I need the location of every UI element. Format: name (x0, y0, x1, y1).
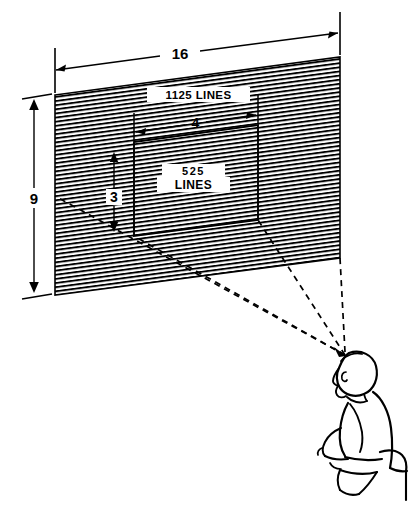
chest (340, 403, 348, 456)
arrow-up (29, 99, 39, 110)
diagram-root: 16 9 1125 LINES 4 3 (0, 0, 419, 506)
dim-line-right-seg (200, 33, 338, 51)
hand (318, 448, 322, 455)
thigh-bottom (340, 470, 377, 474)
thigh-top (345, 457, 382, 460)
dimension-label-16: 16 (172, 45, 189, 62)
label-525-lines-group: 525 LINES (157, 164, 230, 192)
dimension-label-3: 3 (110, 189, 118, 205)
dim-line-left-seg (56, 56, 160, 70)
fingers (330, 463, 341, 469)
back (373, 392, 392, 468)
lower-leg (359, 472, 377, 494)
label-lines: LINES (175, 178, 212, 192)
chair-seat (390, 468, 407, 471)
ext-tick-bottom (22, 294, 52, 299)
dimension-label-9: 9 (30, 190, 38, 207)
collar (347, 397, 367, 402)
foot (340, 490, 359, 495)
shoulder-seam (350, 404, 362, 452)
knee (338, 470, 340, 490)
label-1125-lines: 1125 LINES (165, 89, 231, 101)
upper-arm (323, 428, 341, 456)
label-525: 525 (182, 165, 205, 177)
sight-line-outer-right (340, 258, 345, 352)
label-1125-lines-group: 1125 LINES (147, 87, 250, 102)
aspect-ratio-diagram-svg: 16 9 1125 LINES 4 3 (0, 0, 419, 506)
arrow-down (29, 282, 39, 293)
seated-viewer-figure (318, 352, 407, 500)
dimension-overall-height: 9 (22, 94, 52, 299)
neck-line (364, 394, 367, 401)
ear (342, 372, 347, 381)
ext-tick-top (22, 94, 52, 99)
dimension-label-4: 4 (192, 115, 200, 131)
